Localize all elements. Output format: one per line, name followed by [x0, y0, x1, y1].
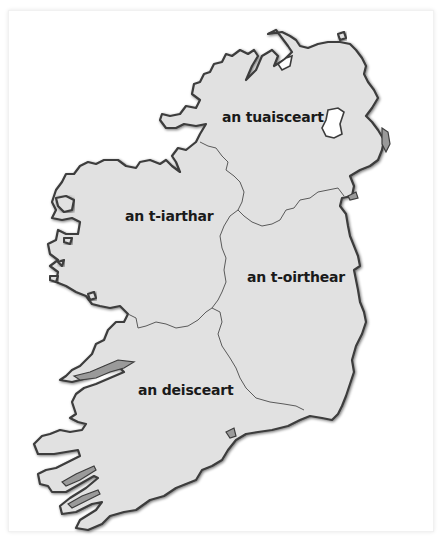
west-island-4: [88, 292, 96, 300]
region-label-west: an t-iarthar: [125, 208, 214, 224]
region-label-east: an t-oirthear: [247, 269, 345, 285]
rathlin-island: [338, 32, 346, 40]
region-label-south: an deisceart: [138, 382, 233, 398]
west-island-1: [64, 238, 72, 244]
ireland-map: [0, 0, 442, 542]
region-label-north: an tuaisceart: [222, 109, 324, 125]
west-island-3: [50, 276, 58, 282]
